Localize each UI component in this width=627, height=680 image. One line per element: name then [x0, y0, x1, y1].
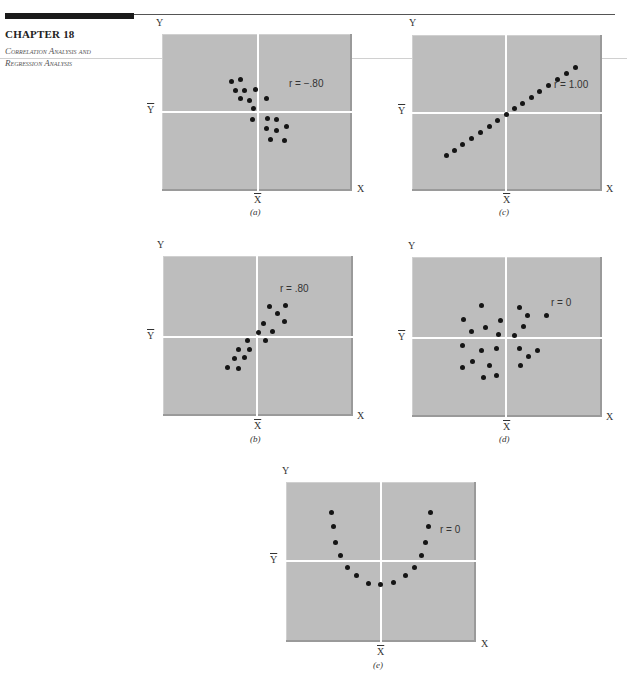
data-point [253, 87, 258, 92]
data-point [225, 365, 230, 370]
data-point [470, 359, 475, 364]
data-point [236, 347, 241, 352]
data-point [423, 540, 428, 545]
data-point [518, 363, 523, 368]
data-point [520, 101, 525, 106]
data-point [275, 311, 280, 316]
data-point [573, 65, 578, 70]
data-point [460, 142, 465, 147]
data-point [232, 356, 237, 361]
x-axis-label: X [606, 411, 613, 422]
data-point [426, 524, 431, 529]
data-point [483, 325, 488, 330]
y-axis-label: Y [282, 465, 289, 476]
data-point [460, 365, 465, 370]
y-mean-label: Y [147, 330, 154, 341]
data-point [274, 117, 279, 122]
x-mean-label: X [254, 420, 261, 431]
data-point [264, 96, 269, 101]
data-point [354, 573, 359, 578]
data-point [564, 71, 569, 76]
data-point [498, 318, 503, 323]
x-axis-label: X [606, 183, 613, 194]
data-point [481, 375, 486, 380]
data-point [544, 313, 549, 318]
y-mean-line [412, 337, 602, 339]
data-point [494, 373, 499, 378]
data-point [268, 137, 273, 142]
data-point [247, 347, 252, 352]
data-point [283, 303, 288, 308]
r-annotation: r = 0 [551, 297, 571, 308]
data-point [479, 348, 484, 353]
data-point [469, 329, 474, 334]
plot-area: r = 1.00 [412, 35, 602, 191]
r-annotation: r = 0 [440, 524, 460, 535]
data-point [555, 77, 560, 82]
data-point [512, 333, 517, 338]
data-point [250, 117, 255, 122]
data-point [478, 130, 483, 135]
data-point [265, 116, 270, 121]
data-point [469, 136, 474, 141]
data-point [535, 348, 540, 353]
panel-caption: (b) [250, 434, 261, 444]
data-point [333, 540, 338, 545]
data-point [263, 338, 268, 343]
data-point [517, 346, 522, 351]
data-point [242, 88, 247, 93]
header-bar [5, 13, 134, 19]
data-point [412, 565, 417, 570]
data-point [461, 317, 466, 322]
data-point [242, 355, 247, 360]
y-axis-label: Y [156, 17, 163, 28]
data-point [428, 510, 433, 515]
y-mean-line [162, 111, 352, 113]
chapter-subtitle: Correlation Analysis and Regression Anal… [5, 45, 91, 69]
panel-caption: (c) [499, 207, 509, 217]
data-point [251, 106, 256, 111]
plot-area: r = .80 [163, 256, 353, 416]
data-point [329, 510, 334, 515]
y-mean-line [286, 560, 476, 562]
x-axis-label: X [357, 183, 364, 194]
x-axis-label: X [357, 410, 364, 421]
data-point [494, 346, 499, 351]
y-mean-line [163, 336, 353, 338]
data-point [391, 580, 396, 585]
data-point [504, 112, 509, 117]
y-mean-label: Y [398, 105, 405, 116]
data-point [247, 98, 252, 103]
data-point [517, 305, 522, 310]
data-point [245, 338, 250, 343]
subtitle-line-1: Correlation Analysis and [5, 45, 91, 57]
plot-area: r = 0 [412, 257, 602, 417]
panel-caption: (e) [373, 660, 383, 670]
data-point [238, 77, 243, 82]
x-mean-label: X [503, 421, 510, 432]
x-mean-label: X [377, 646, 384, 657]
data-point [274, 128, 279, 133]
data-point [284, 124, 289, 129]
data-point [521, 324, 526, 329]
data-point [229, 79, 234, 84]
y-axis-label: Y [409, 17, 416, 28]
y-mean-label: Y [398, 331, 405, 342]
data-point [233, 88, 238, 93]
data-point [403, 573, 408, 578]
data-point [264, 126, 269, 131]
data-point [525, 313, 530, 318]
data-point [419, 553, 424, 558]
x-mean-line [380, 482, 382, 642]
data-point [496, 332, 501, 337]
data-point [256, 330, 261, 335]
data-point [479, 303, 484, 308]
data-point [378, 582, 383, 587]
plot-area: r = −.80 [162, 34, 352, 191]
data-point [270, 329, 275, 334]
plot-area: r = 0 [286, 482, 476, 642]
data-point [537, 89, 542, 94]
r-annotation: r = .80 [280, 283, 309, 294]
data-point [512, 106, 517, 111]
data-point [236, 366, 241, 371]
